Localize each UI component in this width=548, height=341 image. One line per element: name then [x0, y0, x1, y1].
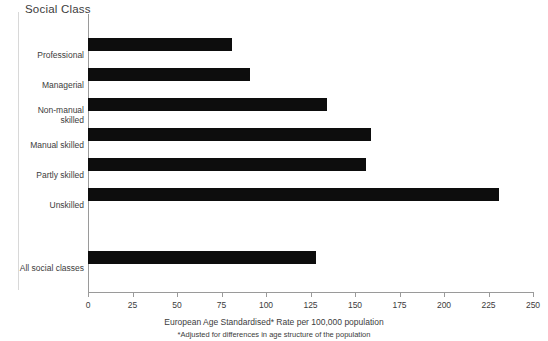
category-axis-labels: ProfessionalManagerialNon-manual skilled…: [0, 14, 84, 292]
x-axis-tick-label: 75: [217, 300, 226, 310]
x-axis-tick: [88, 292, 89, 297]
x-axis-tick: [222, 292, 223, 297]
x-axis-tick: [444, 292, 445, 297]
x-axis-tick-label: 125: [303, 300, 317, 310]
x-axis-tick-label: 50: [172, 300, 181, 310]
bar: [88, 188, 499, 201]
bar: [88, 68, 250, 81]
x-axis-tick-label: 225: [481, 300, 495, 310]
x-axis-tick: [489, 292, 490, 297]
plot-area: 0255075100125150175200225250: [88, 14, 533, 292]
category-label: All social classes: [2, 263, 84, 273]
bar: [88, 98, 327, 111]
x-axis-tick: [266, 292, 267, 297]
category-label: Partly skilled: [2, 170, 84, 180]
x-axis-tick: [533, 292, 534, 297]
category-label: Manual skilled: [2, 140, 84, 150]
x-axis-caption: European Age Standardised* Rate per 100,…: [0, 317, 548, 327]
category-label: Professional: [2, 50, 84, 60]
x-axis-tick: [400, 292, 401, 297]
category-label: Unskilled: [2, 200, 84, 210]
x-axis-tick-label: 0: [86, 300, 91, 310]
x-axis-tick-label: 200: [437, 300, 451, 310]
bar: [88, 158, 366, 171]
bar: [88, 128, 371, 141]
x-axis-tick-label: 175: [392, 300, 406, 310]
x-axis-tick: [133, 292, 134, 297]
chart-page: Social Class ProfessionalManagerialNon-m…: [0, 0, 548, 341]
x-axis-tick-label: 250: [526, 300, 540, 310]
bar: [88, 38, 232, 51]
x-axis-tick-label: 100: [259, 300, 273, 310]
chart-footnote: *Adjusted for differences in age structu…: [0, 330, 548, 339]
category-label: Managerial: [2, 80, 84, 90]
x-axis-tick: [177, 292, 178, 297]
x-axis-tick-label: 25: [128, 300, 137, 310]
x-axis-tick: [311, 292, 312, 297]
category-label: Non-manual skilled: [2, 105, 84, 125]
x-axis-tick: [355, 292, 356, 297]
x-axis-tick-label: 150: [348, 300, 362, 310]
bar: [88, 251, 316, 264]
